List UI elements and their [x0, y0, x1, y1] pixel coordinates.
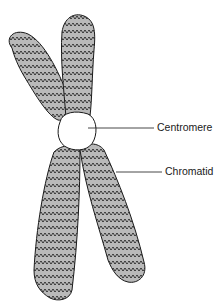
chromatid-label: Chromatid: [165, 165, 213, 177]
chromatid-upper-right: [61, 15, 94, 118]
centromere-label: Centromere: [157, 121, 212, 133]
chromosome-diagram: [0, 0, 224, 307]
chromatid-upper-left: [9, 32, 69, 120]
centromere: [58, 112, 96, 150]
chromatid-lower-left: [34, 146, 80, 300]
chromatid-lower-right: [80, 144, 145, 282]
